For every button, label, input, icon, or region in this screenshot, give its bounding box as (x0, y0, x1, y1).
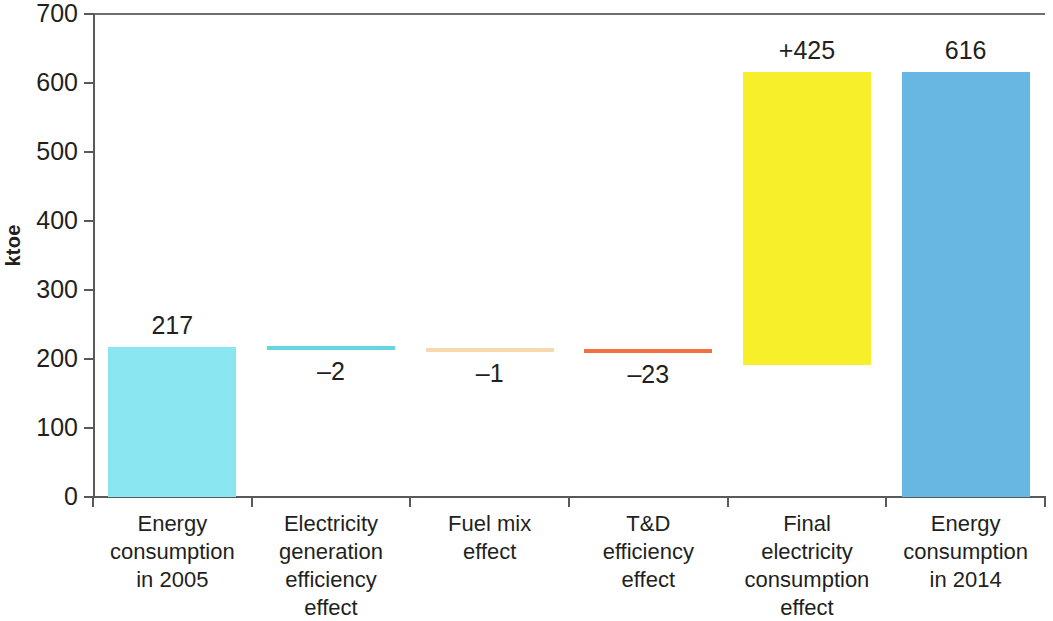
waterfall-chart: ktoe 7006005004003002001000 217–2–1–23+4… (0, 0, 1053, 621)
x-category-label-line: efficiency (245, 566, 418, 594)
bar-electricity-generation-efficiency-effect[interactable] (267, 346, 395, 350)
y-axis-tick-label: 200 (0, 346, 78, 371)
y-axis-tick-label: 100 (0, 415, 78, 440)
x-axis-tick (727, 496, 729, 507)
x-category-label-line: in 2005 (86, 566, 259, 594)
x-category-label-line: Final (721, 510, 894, 538)
y-axis-tick (84, 82, 94, 84)
bar-energy-consumption-2014[interactable] (902, 72, 1030, 497)
x-axis-tick (409, 496, 411, 507)
x-category-label-line: consumption (86, 538, 259, 566)
y-axis-tick (84, 13, 94, 15)
plot-top-border (93, 13, 1045, 15)
x-category-label-line: Energy (879, 510, 1052, 538)
bar-td-efficiency-effect[interactable] (584, 349, 712, 353)
x-category-label-line: efficiency (562, 538, 735, 566)
x-category-label-final-electricity-consumption-effect: Finalelectricityconsumptioneffect (721, 510, 894, 621)
x-category-label-td-efficiency-effect: T&Defficiencyeffect (562, 510, 735, 594)
y-axis-tick-label: 500 (0, 139, 78, 164)
bar-value-label-energy-consumption-2014: 616 (872, 38, 1053, 63)
x-category-label-line: T&D (562, 510, 735, 538)
y-axis-tick (84, 427, 94, 429)
bar-value-label-energy-consumption-2005: 217 (78, 313, 266, 338)
x-category-label-line: consumption (879, 538, 1052, 566)
x-category-label-line: consumption (721, 566, 894, 594)
y-axis-tick (84, 358, 94, 360)
x-category-label-fuel-mix-effect: Fuel mixeffect (403, 510, 576, 566)
x-category-label-line: Energy (86, 510, 259, 538)
y-axis-line (93, 14, 95, 498)
x-axis-tick (1044, 496, 1046, 507)
y-axis-tick-label: 300 (0, 277, 78, 302)
x-axis-tick (92, 496, 94, 507)
y-axis-tick-label: 0 (0, 484, 78, 509)
bar-energy-consumption-2005[interactable] (108, 347, 236, 497)
x-category-label-energy-consumption-2005: Energyconsumptionin 2005 (86, 510, 259, 594)
y-axis-tick (84, 289, 94, 291)
x-category-label-line: effect (403, 538, 576, 566)
x-category-label-line: effect (562, 566, 735, 594)
x-category-label-line: Electricity (245, 510, 418, 538)
x-category-label-energy-consumption-2014: Energyconsumptionin 2014 (879, 510, 1052, 594)
y-axis-tick-label: 600 (0, 70, 78, 95)
x-axis-tick (885, 496, 887, 507)
x-category-label-line: generation (245, 538, 418, 566)
x-category-label-line: Fuel mix (403, 510, 576, 538)
bar-fuel-mix-effect[interactable] (426, 348, 554, 352)
y-axis-tick-label: 700 (0, 1, 78, 26)
x-category-label-line: effect (721, 594, 894, 621)
x-axis-tick (251, 496, 253, 507)
y-axis-tick (84, 151, 94, 153)
x-category-label-electricity-generation-efficiency-effect: Electricitygenerationefficiencyeffect (245, 510, 418, 621)
x-category-label-line: in 2014 (879, 566, 1052, 594)
x-category-label-line: effect (245, 594, 418, 621)
bar-value-label-td-efficiency-effect: –23 (554, 362, 742, 387)
bar-final-electricity-consumption-effect[interactable] (743, 72, 871, 365)
y-axis-tick (84, 220, 94, 222)
y-axis-tick-label: 400 (0, 208, 78, 233)
x-axis-tick (568, 496, 570, 507)
x-category-label-line: electricity (721, 538, 894, 566)
